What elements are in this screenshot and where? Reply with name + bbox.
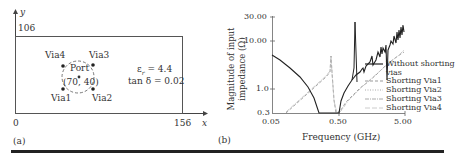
bottom-divider [11, 150, 444, 153]
legend-without-line1: Without shorting [386, 60, 455, 68]
legend-via3: Shorting Via3 [386, 95, 442, 103]
legend-via4: Shorting Via4 [386, 104, 442, 112]
legend-via1: Shorting Via1 [386, 77, 442, 85]
legend-via2: Shorting Via2 [386, 86, 442, 94]
